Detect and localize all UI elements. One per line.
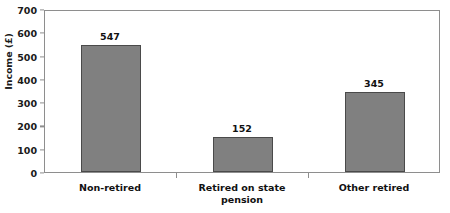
bar	[81, 45, 141, 172]
x-category-label: Non-retired	[40, 182, 180, 194]
y-tick-label: 600	[0, 28, 37, 39]
x-category-label: Other retired	[304, 182, 444, 194]
bar	[345, 92, 405, 172]
y-tick-label: 700	[0, 5, 37, 16]
x-category-label-line: Non-retired	[40, 182, 180, 194]
bar-chart: Income (£) 0100200300400500600700 Non-re…	[0, 0, 450, 213]
y-tick-label: 0	[0, 168, 37, 179]
y-tick-label: 500	[0, 51, 37, 62]
y-tick-label: 200	[0, 121, 37, 132]
bar-value-label: 345	[334, 78, 414, 89]
y-tick-label: 100	[0, 144, 37, 155]
x-category-label-line: Other retired	[304, 182, 444, 194]
bar	[213, 137, 273, 172]
x-tick-mark	[308, 173, 309, 178]
x-category-label-line: Retired on state	[172, 182, 312, 194]
bar-value-label: 547	[70, 31, 150, 42]
y-tick-label: 300	[0, 98, 37, 109]
y-tick-label: 400	[0, 74, 37, 85]
bar-value-label: 152	[202, 123, 282, 134]
x-tick-mark	[176, 173, 177, 178]
x-category-label-line: pension	[172, 194, 312, 206]
x-category-label: Retired on statepension	[172, 182, 312, 206]
